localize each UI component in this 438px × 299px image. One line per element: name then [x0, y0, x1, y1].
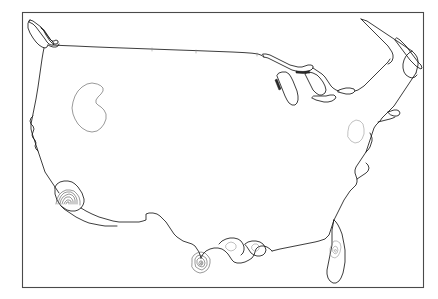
mississippi-delta [245, 241, 266, 256]
map-canvas [0, 0, 438, 299]
lake-superior-channel-mark [296, 71, 310, 74]
outer-banks [357, 163, 369, 179]
chesapeake-oval-contour [348, 120, 364, 143]
st-lawrence-outline [361, 19, 393, 64]
south-texas-contour-4 [199, 261, 203, 265]
us-canada-border-ny [355, 59, 390, 91]
northeast-coastline [380, 73, 416, 121]
us-canada-border-east [313, 68, 339, 91]
map-figure [0, 0, 438, 299]
chesapeake-bay-outline [366, 121, 380, 152]
pacific-coastline [31, 48, 59, 193]
florida-panhandle-coast [272, 220, 334, 251]
louisiana-gulf-coast [219, 238, 244, 255]
puget-sound-outline [41, 28, 58, 44]
gulf-lobe-contour-1 [226, 242, 236, 251]
olympic-peninsula-outline [28, 20, 48, 48]
florida-interior-contour-2 [333, 246, 338, 254]
cape-cod-outline [388, 110, 400, 116]
socal-contour-6 [66, 202, 69, 204]
lake-ontario-outline [338, 88, 355, 94]
south-texas-contour-5 [201, 262, 203, 264]
baja-gulf-coast [61, 206, 117, 226]
socal-contour-4 [62, 197, 73, 204]
great-basin-contour-loop [72, 83, 106, 132]
texas-gulf-coast [201, 246, 272, 263]
us-canada-border-49th [53, 45, 264, 58]
lake-superior-outline [263, 54, 313, 72]
florida-interior-contour-3 [335, 250, 337, 253]
socal-bight-outline [55, 181, 84, 211]
plot-frame [23, 13, 424, 288]
us-mexico-border-west [81, 208, 201, 258]
lake-erie-outline [312, 95, 336, 102]
southeast-atlantic-coast [334, 152, 366, 220]
